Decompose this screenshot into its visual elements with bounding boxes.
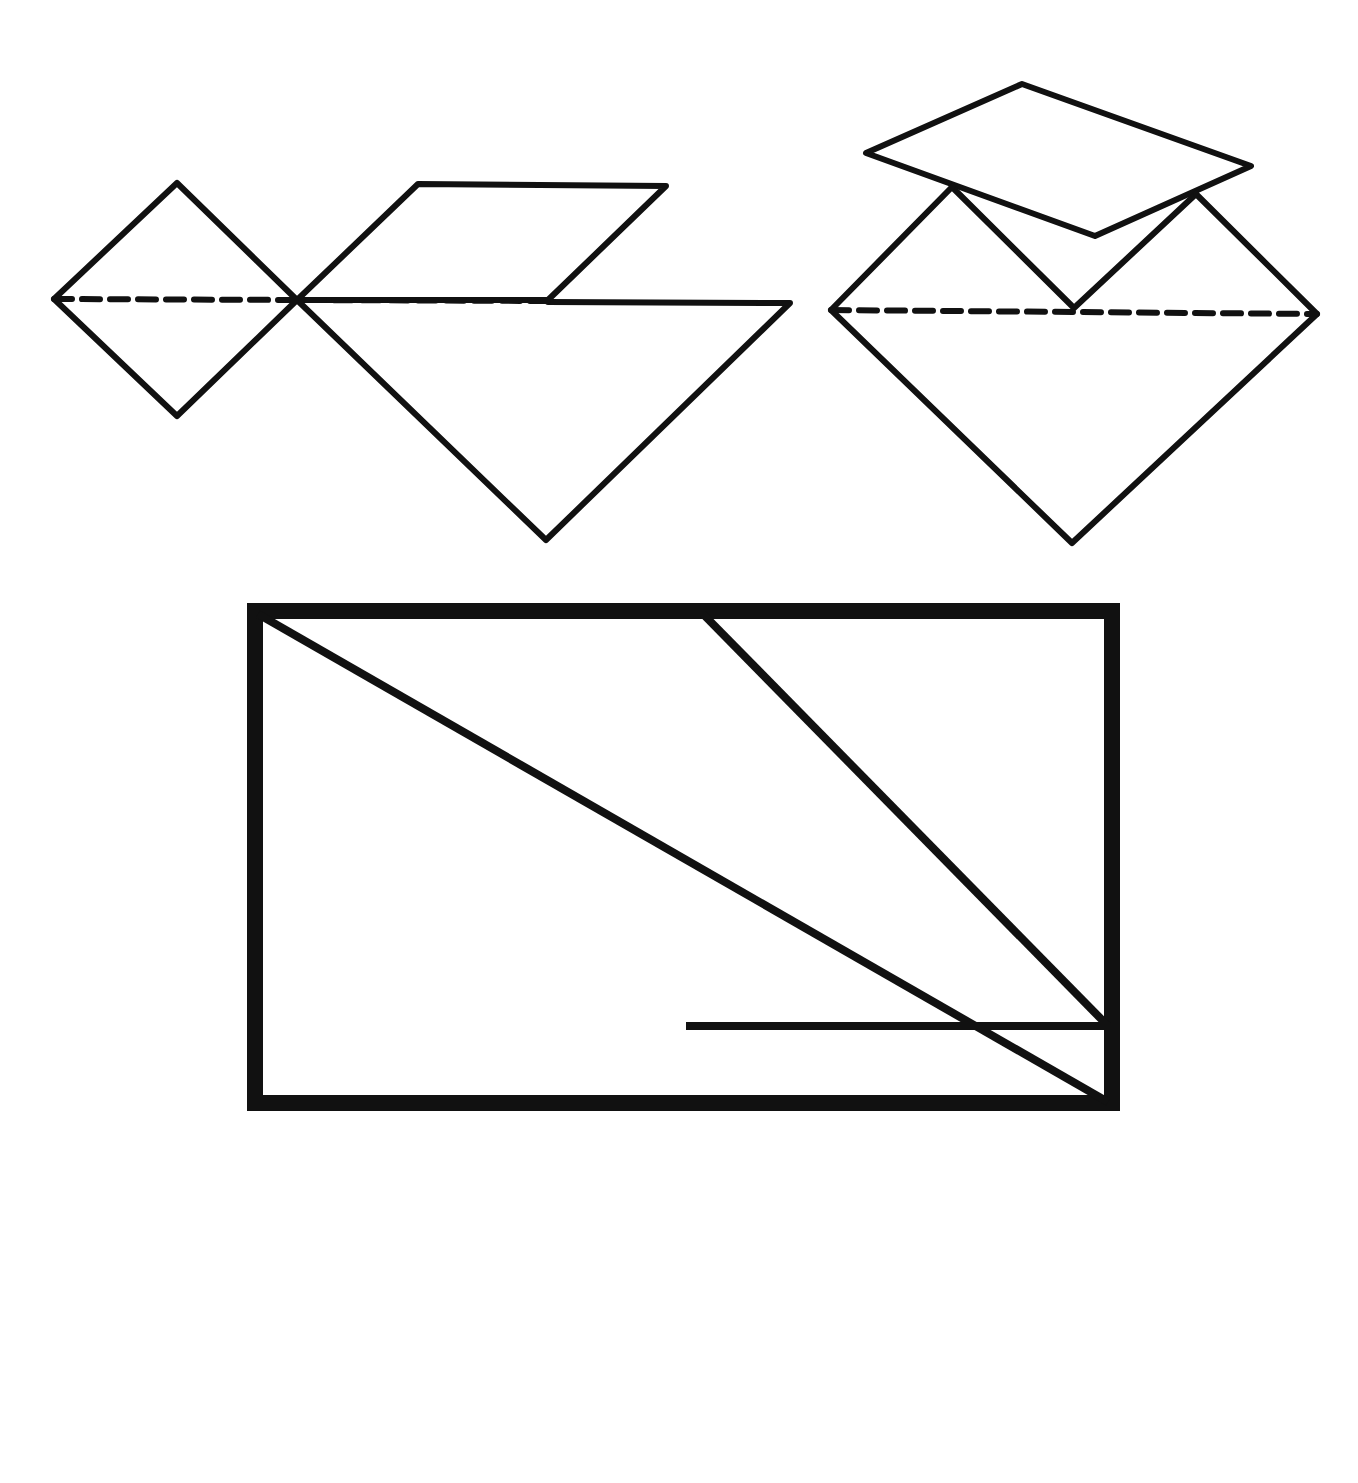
tangram-diagram [0, 0, 1358, 1483]
parallelogram-piece [297, 184, 666, 300]
upper-diagonal [703, 614, 1108, 1026]
dashed-fold-line-right [831, 310, 1317, 314]
large-triangle [297, 300, 790, 540]
large-diamond [831, 187, 1317, 543]
